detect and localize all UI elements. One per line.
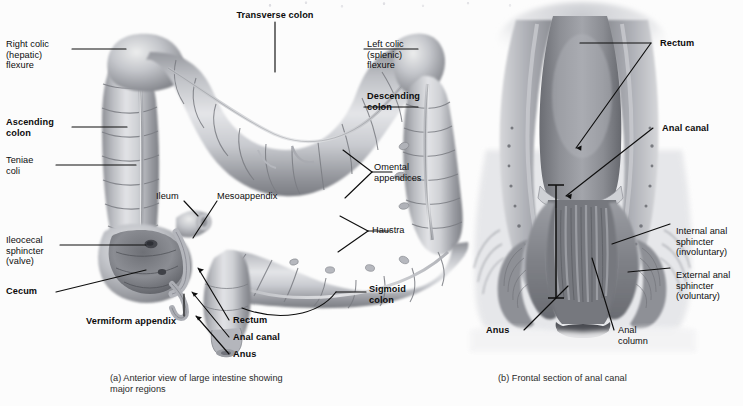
anatomy-figure: Right colic (hepatic) flexure Transverse… (0, 0, 743, 406)
label-omental-appendices: Omental appendices (374, 162, 442, 183)
label-anal-canal-b: Anal canal (662, 123, 732, 134)
label-descending-colon: Descending colon (367, 91, 435, 112)
label-internal-anal-sphincter: Internal anal sphincter (involuntary) (676, 226, 742, 258)
label-anus-a: Anus (233, 349, 281, 360)
label-mesoappendix: Mesoappendix (217, 191, 297, 202)
label-anal-canal-a: Anal canal (233, 332, 297, 343)
label-rectum-a: Rectum (233, 315, 293, 326)
label-ileum: Ileum (156, 191, 190, 202)
label-teniae-coli: Teniae coli (6, 155, 56, 176)
label-external-anal-sphincter: External anal sphincter (voluntary) (676, 270, 742, 302)
label-sigmoid-colon: Sigmoid colon (369, 284, 427, 305)
label-vermiform-appendix: Vermiform appendix (86, 316, 204, 327)
label-anal-column: Anal column (618, 325, 668, 346)
label-anus-b: Anus (486, 325, 530, 336)
label-left-colic-flexure: Left colic (splenic) flexure (367, 39, 431, 71)
label-right-colic-flexure: Right colic (hepatic) flexure (6, 39, 72, 71)
caption-panel-a: (a) Anterior view of large intestine sho… (110, 373, 340, 396)
label-ileocecal-sphincter: Ileocecal sphincter (valve) (6, 235, 64, 267)
caption-panel-b: (b) Frontal section of anal canal (498, 373, 728, 384)
label-cecum: Cecum (6, 286, 54, 297)
label-ascending-colon: Ascending colon (6, 117, 72, 138)
label-haustra: Haustra (372, 225, 420, 236)
scan-speckle-artifact (240, 0, 540, 9)
label-rectum-b: Rectum (660, 38, 726, 49)
label-transverse-colon: Transverse colon (213, 10, 337, 21)
